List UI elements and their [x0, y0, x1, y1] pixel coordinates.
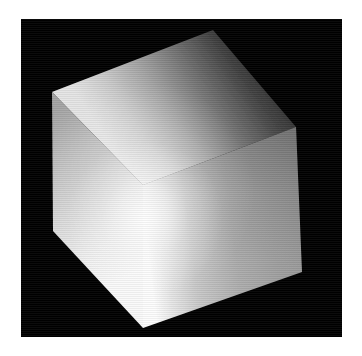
specular-bloom-core [21, 19, 342, 337]
cube-scene [21, 19, 342, 337]
cube-specular-group [21, 19, 342, 337]
cube-body [21, 19, 342, 337]
render-viewport [21, 19, 342, 337]
page-root [0, 0, 362, 356]
cube-svg [21, 19, 342, 337]
